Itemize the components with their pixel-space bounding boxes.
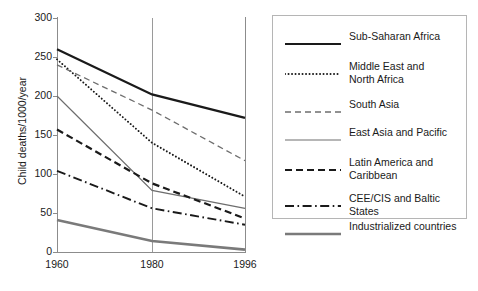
legend-label: East Asia and Pacific <box>349 126 465 139</box>
series-line <box>57 171 245 225</box>
legend-label: Latin America andCaribbean <box>349 156 465 181</box>
series-line <box>57 96 245 208</box>
legend-label: CEE/CIS and Baltic States <box>349 192 465 217</box>
legend-line-sample <box>285 132 341 144</box>
series-line <box>57 49 245 118</box>
series-line <box>57 220 245 250</box>
series-line <box>57 59 245 196</box>
legend-line-sample <box>285 66 341 78</box>
legend-line-sample <box>285 226 341 238</box>
legend-line-sample <box>285 162 341 174</box>
legend-line-sample <box>285 198 341 210</box>
legend: Sub-Saharan AfricaMiddle East andNorth A… <box>272 15 467 219</box>
legend-line-sample <box>285 36 341 48</box>
legend-line-sample <box>285 104 341 116</box>
legend-label: Sub-Saharan Africa <box>349 30 465 43</box>
series-line <box>57 65 245 161</box>
line-chart: Child deaths/1000/year 05010015020025030… <box>0 0 478 291</box>
legend-label: Industrialized countries <box>349 220 465 233</box>
legend-label: Middle East andNorth Africa <box>349 60 465 85</box>
legend-label: South Asia <box>349 98 465 111</box>
